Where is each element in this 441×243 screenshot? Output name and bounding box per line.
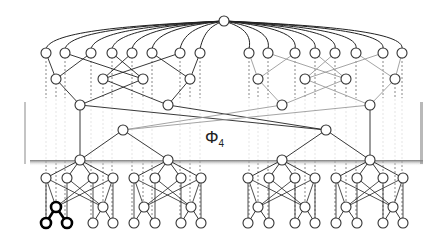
level6-node <box>378 173 388 183</box>
level7-node <box>253 202 263 212</box>
leaf-node <box>176 218 186 228</box>
level1-node <box>86 48 96 58</box>
level5-node <box>365 155 375 165</box>
edge <box>356 53 395 79</box>
level7-node <box>341 202 351 212</box>
highlight-parent-node <box>51 202 61 212</box>
level5-node <box>277 155 287 165</box>
leaf-node <box>196 218 206 228</box>
level6-node <box>264 173 274 183</box>
level1-node <box>175 48 185 58</box>
level2-node <box>341 74 351 84</box>
leaf-node <box>398 218 408 228</box>
edge <box>346 178 383 207</box>
level1-node <box>397 48 407 58</box>
level4-node <box>118 125 128 135</box>
level6-node <box>108 173 118 183</box>
level6-node <box>62 173 72 183</box>
highlight-leaf-node <box>41 218 51 228</box>
level2-node <box>390 74 400 84</box>
level6-node <box>290 173 300 183</box>
level1-node <box>195 48 205 58</box>
level7-node <box>139 202 149 212</box>
level1-node <box>310 48 320 58</box>
phi-subscript: 4 <box>219 138 225 149</box>
level1-node <box>330 48 340 58</box>
edge <box>56 178 93 207</box>
level7-node <box>388 202 398 212</box>
level1-node <box>351 48 361 58</box>
level4-node <box>321 125 331 135</box>
leaf-node <box>129 218 139 228</box>
level1-node <box>263 48 273 58</box>
edge <box>144 178 181 207</box>
leaf-node <box>150 218 160 228</box>
level6-node <box>41 173 51 183</box>
level5-node <box>163 155 173 165</box>
leaf-node <box>88 218 98 228</box>
edge <box>152 53 190 79</box>
level6-node <box>398 173 408 183</box>
level6-node <box>331 173 341 183</box>
highlight-leaf-node <box>62 218 72 228</box>
level6-node <box>352 173 362 183</box>
root-edge <box>224 21 402 49</box>
level6-node <box>310 173 320 183</box>
root-node <box>219 16 229 26</box>
leaf-node <box>290 218 300 228</box>
level1-node <box>60 48 70 58</box>
level2-node <box>51 74 61 84</box>
level3-node <box>365 100 375 110</box>
level1-node <box>290 48 300 58</box>
level2-node <box>253 74 263 84</box>
panel-shadow-right <box>420 102 423 164</box>
edge <box>258 53 295 79</box>
leaf-node <box>378 218 388 228</box>
level6-node <box>243 173 253 183</box>
level1-node <box>378 48 388 58</box>
level3-node <box>277 100 287 110</box>
level1-node <box>127 48 137 58</box>
level1-node <box>244 48 254 58</box>
level2-node <box>300 74 310 84</box>
level1-node <box>107 48 117 58</box>
leaf-node <box>310 218 320 228</box>
leaf-node <box>264 218 274 228</box>
leaf-node <box>243 218 253 228</box>
phi-symbol: Φ <box>205 128 219 147</box>
panel-label: Φ4 <box>205 128 224 149</box>
level1-node <box>41 48 51 58</box>
level7-node <box>186 202 196 212</box>
level2-node <box>185 74 195 84</box>
level1-node <box>147 48 157 58</box>
leaf-node <box>108 218 118 228</box>
level3-node <box>75 100 85 110</box>
leaf-node <box>352 218 362 228</box>
edge <box>258 178 295 207</box>
hierarchical-network-diagram <box>0 0 441 243</box>
level5-node <box>75 155 85 165</box>
level2-node <box>138 74 148 84</box>
level6-node <box>196 173 206 183</box>
root-edge <box>224 21 250 49</box>
level6-node <box>176 173 186 183</box>
level3-node <box>163 100 173 110</box>
panel-shadow-left <box>24 102 26 164</box>
level6-node <box>150 173 160 183</box>
level7-node <box>300 202 310 212</box>
level6-node <box>129 173 139 183</box>
level7-node <box>98 202 108 212</box>
level6-node <box>88 173 98 183</box>
leaf-node <box>331 218 341 228</box>
level2-node <box>98 74 108 84</box>
